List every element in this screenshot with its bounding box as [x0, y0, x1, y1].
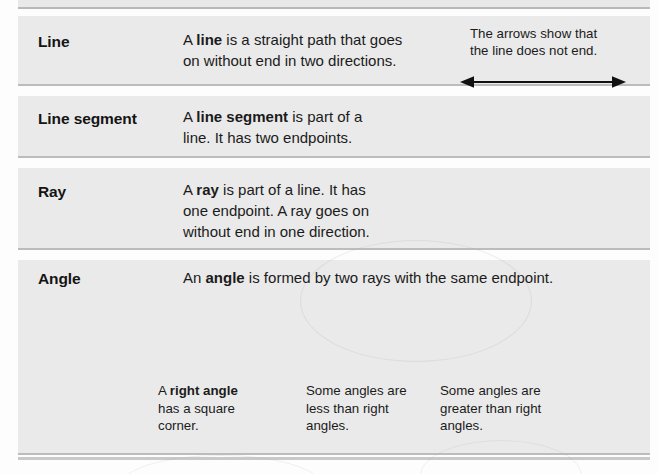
previous-row-sliver — [18, 0, 650, 9]
double-headed-arrow-icon — [458, 70, 628, 94]
term-label-ray: Ray — [38, 183, 66, 201]
table-bottom-edge — [18, 457, 650, 460]
table-row-ray: Ray A ray is part of a line. It has one … — [18, 168, 650, 250]
term-label-line: Line — [38, 33, 69, 51]
caption-right-angle-keyword: right angle — [170, 383, 238, 398]
caption-right-angle: A right angle has a square corner. — [158, 382, 298, 435]
caption-right-angle-rest: has a square corner. — [158, 401, 235, 434]
term-label-line-segment: Line segment — [38, 110, 137, 128]
description-ray-keyword: ray — [196, 181, 219, 198]
description-line-segment: A line segment is part of a line. It has… — [183, 106, 448, 148]
description-line-prefix: A — [183, 31, 196, 48]
caption-right-angle-prefix: A — [158, 383, 170, 398]
description-line: A line is a straight path that goes on w… — [183, 29, 448, 71]
description-ray: A ray is part of a line. It has one endp… — [183, 179, 453, 242]
description-line-segment-keyword: line segment — [196, 108, 288, 125]
table-row-line: Line A line is a straight path that goes… — [18, 16, 650, 86]
description-ray-prefix: A — [183, 181, 196, 198]
description-angle-prefix: An — [183, 269, 206, 286]
caption-obtuse-angle: Some angles are greater than right angle… — [440, 382, 590, 435]
note-line: The arrows show that the line does not e… — [470, 25, 640, 59]
description-line-segment-prefix: A — [183, 108, 196, 125]
term-label-angle: Angle — [38, 270, 81, 288]
description-angle-rest: is formed by two rays with the same endp… — [245, 269, 553, 286]
description-angle-keyword: angle — [206, 269, 245, 286]
table-row-angle: Angle An angle is formed by two rays wit… — [18, 260, 650, 455]
geometry-reference-page: Line A line is a straight path that goes… — [0, 0, 658, 474]
description-line-keyword: line — [196, 31, 222, 48]
caption-acute-angle: Some angles are less than right angles. — [306, 382, 446, 435]
table-row-line-segment: Line segment A line segment is part of a… — [18, 96, 650, 158]
description-angle: An angle is formed by two rays with the … — [183, 267, 653, 288]
